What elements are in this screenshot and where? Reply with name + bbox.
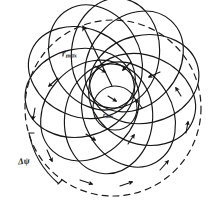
delta-psi-label: Δψ bbox=[18, 156, 31, 166]
orbit-diagram-svg bbox=[0, 0, 220, 215]
orbit-direction-arrows bbox=[33, 62, 188, 186]
r-min-subscript: min bbox=[105, 114, 113, 119]
orbit-ellipse-family bbox=[14, 0, 211, 184]
r-max-label: rmax bbox=[62, 49, 77, 60]
orbit-ellipse bbox=[65, 0, 204, 132]
orbit-figure: rmax rmin Δψ bbox=[0, 0, 220, 215]
r-max-subscript: max bbox=[65, 51, 77, 59]
orbit-ellipse bbox=[63, 45, 194, 184]
r-min-label: rmin bbox=[103, 112, 113, 121]
